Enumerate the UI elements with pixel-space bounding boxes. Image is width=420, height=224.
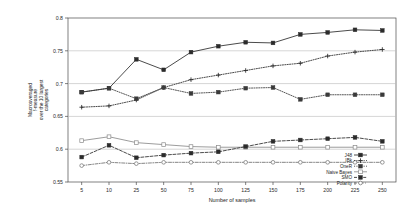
legend-label-smo: SMO <box>342 175 353 180</box>
data-point-oner <box>107 86 111 90</box>
data-point-polarity-legend <box>359 181 363 185</box>
data-point-j48 <box>298 33 302 37</box>
y-axis-title-line: Macroaveraged <box>28 83 33 117</box>
data-point-polarity <box>162 160 166 164</box>
y-axis-title-line: over the 10 largest <box>39 79 44 120</box>
data-point-j48 <box>326 31 330 35</box>
legend-label-polarity: Polarity <box>337 181 353 186</box>
y-axis-tick-label: 0.7 <box>56 81 63 87</box>
legend-label-naive-bayes: Naive Bayes <box>326 170 352 175</box>
data-point-polarity <box>189 160 193 164</box>
line-chart: 0.80.750.70.650.60.555102550751001251501… <box>0 0 420 224</box>
data-point-polarity <box>380 160 384 164</box>
x-axis-tick-label: 250 <box>378 187 387 193</box>
data-point-oner <box>80 90 84 94</box>
data-point-polarity <box>326 160 330 164</box>
data-point-j48-legend <box>359 153 363 157</box>
x-axis-tick-label: 150 <box>269 187 278 193</box>
data-point-oner <box>353 93 357 97</box>
data-point-polarity <box>107 160 111 164</box>
y-axis-title-line: categories <box>44 88 49 111</box>
data-point-naive-bayes <box>271 145 275 149</box>
x-axis-tick-label: 125 <box>241 187 250 193</box>
data-point-j48 <box>189 50 193 54</box>
data-point-naive-bayes <box>326 145 330 149</box>
data-point-polarity <box>298 160 302 164</box>
data-point-smo <box>162 153 166 157</box>
data-point-oner <box>134 97 138 101</box>
legend-label-j48: J48 <box>345 153 353 158</box>
y-axis-tick-label: 0.55 <box>53 179 63 185</box>
y-axis-tick-label: 0.75 <box>53 48 63 54</box>
y-axis-title: Macroaveragedf-measureover the 10 larges… <box>28 79 49 120</box>
data-point-smo <box>353 136 357 140</box>
data-point-polarity <box>80 164 84 168</box>
data-point-naive-bayes <box>353 145 357 149</box>
data-point-oner <box>244 86 248 90</box>
x-axis-tick-label: 50 <box>161 187 167 193</box>
data-point-naive-bayes <box>80 139 84 143</box>
x-axis-tick-label: 200 <box>323 187 332 193</box>
data-point-oner <box>189 92 193 96</box>
data-point-polarity <box>244 160 248 164</box>
data-point-j48 <box>380 29 384 33</box>
data-point-naive-bayes-legend <box>359 170 363 174</box>
data-point-polarity <box>134 162 138 166</box>
data-point-oner <box>326 93 330 97</box>
data-point-naive-bayes <box>298 145 302 149</box>
data-point-smo <box>107 143 111 147</box>
data-point-naive-bayes <box>162 143 166 147</box>
data-point-smo <box>298 138 302 142</box>
data-point-smo <box>326 137 330 141</box>
y-axis-title-line: f-measure <box>33 89 38 111</box>
data-point-oner <box>298 97 302 101</box>
legend-label-oner: OneR <box>340 164 353 169</box>
data-point-naive-bayes <box>134 141 138 145</box>
data-point-naive-bayes <box>189 145 193 149</box>
x-axis-tick-label: 225 <box>351 187 360 193</box>
x-axis-tick-label: 175 <box>296 187 305 193</box>
data-point-oner <box>216 90 220 94</box>
data-point-j48 <box>134 57 138 61</box>
x-axis-title: Number of samples <box>209 197 256 203</box>
data-point-j48 <box>353 28 357 32</box>
data-point-smo <box>134 156 138 160</box>
data-point-j48 <box>162 68 166 72</box>
data-point-oner <box>380 93 384 97</box>
x-axis-tick-label: 10 <box>106 187 112 193</box>
data-point-oner-legend <box>359 164 363 168</box>
data-point-smo <box>244 145 248 149</box>
data-point-polarity <box>271 160 275 164</box>
data-point-smo <box>80 155 84 159</box>
x-axis-tick-label: 5 <box>80 187 83 193</box>
data-point-oner <box>271 86 275 90</box>
data-point-smo <box>189 151 193 155</box>
y-axis-tick-label: 0.65 <box>53 113 63 119</box>
data-point-naive-bayes <box>380 145 384 149</box>
data-point-j48 <box>271 41 275 45</box>
data-point-smo <box>380 139 384 143</box>
legend-item-naive-bayes: Naive Bayes <box>326 170 367 175</box>
chart-container: 0.80.750.70.650.60.555102550751001251501… <box>0 0 420 224</box>
data-point-j48 <box>216 44 220 48</box>
data-point-j48 <box>244 40 248 44</box>
data-point-smo <box>271 139 275 143</box>
y-axis-tick-label: 0.6 <box>56 146 63 152</box>
data-point-naive-bayes <box>216 145 220 149</box>
data-point-naive-bayes <box>107 135 111 139</box>
data-point-smo <box>216 150 220 154</box>
x-axis-tick-label: 25 <box>133 187 139 193</box>
y-axis-tick-label: 0.8 <box>56 15 63 21</box>
x-axis-tick-label: 75 <box>188 187 194 193</box>
data-point-oner <box>162 86 166 90</box>
data-point-polarity <box>216 160 220 164</box>
x-axis-tick-label: 100 <box>214 187 223 193</box>
legend-label-ibk: IBk <box>345 158 352 163</box>
data-point-smo-legend <box>359 176 363 180</box>
